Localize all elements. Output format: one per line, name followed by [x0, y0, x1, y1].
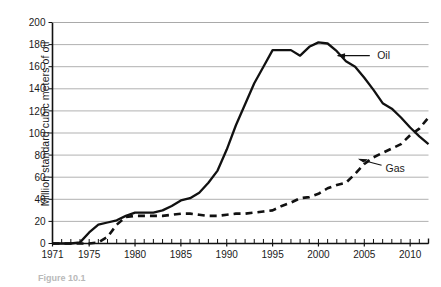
- x-tick-label: 1980: [124, 249, 147, 260]
- figure-container: Million standard cubic meters of oil 020…: [0, 0, 441, 287]
- y-tick-label: 200: [29, 17, 46, 28]
- y-tick-label: 60: [34, 172, 46, 183]
- y-tick-label: 160: [29, 61, 46, 72]
- x-tick-label: 1975: [78, 249, 101, 260]
- y-tick-label: 180: [29, 39, 46, 50]
- line-chart: 0204060801001201401601802001971197519801…: [0, 0, 441, 287]
- figure-caption: Figure 10.1: [38, 273, 86, 283]
- caption-prefix: Figure: [38, 273, 66, 283]
- gas-annotation-label: Gas: [386, 162, 405, 174]
- x-tick-label: 1995: [261, 249, 284, 260]
- y-tick-label: 80: [34, 150, 46, 161]
- x-tick-label: 2010: [399, 249, 422, 260]
- y-tick-label: 120: [29, 106, 46, 117]
- y-tick-label: 140: [29, 83, 46, 94]
- caption-number: 10.1: [68, 273, 86, 283]
- x-tick-label: 1985: [170, 249, 193, 260]
- series-line-gas: [53, 118, 429, 244]
- y-tick-label: 40: [34, 194, 46, 205]
- y-tick-label: 0: [40, 238, 46, 249]
- x-tick-label: 2000: [307, 249, 330, 260]
- y-tick-label: 20: [34, 216, 46, 227]
- x-tick-label: 1990: [216, 249, 239, 260]
- x-tick-label: 1971: [41, 249, 64, 260]
- y-tick-label: 100: [29, 128, 46, 139]
- x-tick-label: 2005: [353, 249, 376, 260]
- oil-annotation-label: Oil: [377, 49, 390, 61]
